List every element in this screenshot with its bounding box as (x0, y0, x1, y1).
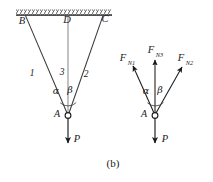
node-label-B: B (19, 15, 26, 26)
force-label-FN2-subscript: N2 (185, 59, 194, 66)
angle-label-alpha-right: α (143, 85, 150, 96)
physics-figure-three-bar-truss: B D C A 1 3 2 α β P F N1 F N3 (0, 0, 213, 182)
node-label-C: C (101, 13, 109, 24)
node-label-A-left: A (53, 108, 61, 119)
figure-caption: (b) (107, 157, 120, 170)
node-label-D: D (62, 14, 71, 25)
member-label-1: 1 (30, 68, 35, 78)
joint-node-A-right (152, 113, 158, 119)
force-label-FN1-subscript: N1 (127, 59, 135, 66)
figure-background (0, 0, 213, 182)
load-label-P-right: P (161, 133, 169, 144)
node-label-A-right: A (140, 108, 148, 119)
member-label-2: 2 (84, 69, 89, 79)
force-label-FN2-base: F (177, 52, 185, 63)
joint-node-A (65, 113, 71, 119)
angle-label-beta-left: β (66, 84, 73, 95)
force-label-FN3-base: F (147, 44, 155, 55)
angle-label-beta-right: β (156, 84, 163, 95)
member-label-3: 3 (59, 67, 65, 77)
force-label-FN1-base: F (119, 52, 127, 63)
angle-label-alpha-left: α (53, 85, 60, 96)
load-label-P-left: P (73, 133, 81, 144)
force-label-FN3-subscript: N3 (155, 51, 163, 58)
